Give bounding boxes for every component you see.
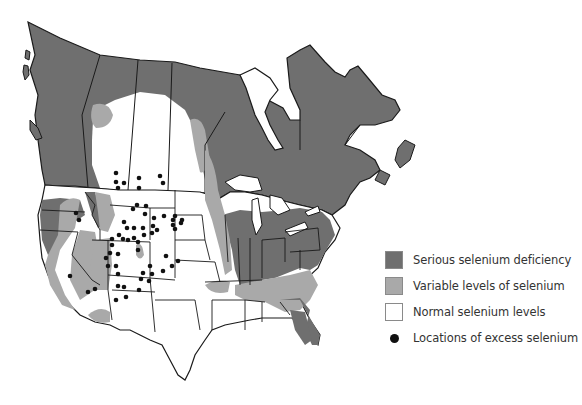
legend-label: Serious selenium deficiency — [413, 253, 571, 267]
variable-levels-swatch — [385, 277, 403, 295]
normal-levels-swatch — [385, 303, 403, 321]
legend-item-serious-deficiency: Serious selenium deficiency — [385, 247, 580, 273]
excess-dot-icon — [385, 329, 403, 347]
legend-item-excess-selenium: Locations of excess selenium — [385, 325, 580, 351]
legend: Serious selenium deficiency Variable lev… — [385, 247, 580, 351]
legend-label: Locations of excess selenium — [413, 331, 578, 345]
legend-item-variable-levels: Variable levels of selenium — [385, 273, 580, 299]
legend-label: Variable levels of selenium — [413, 279, 565, 293]
legend-label: Normal selenium levels — [413, 305, 545, 319]
serious-deficiency-swatch — [385, 251, 403, 269]
legend-item-normal-levels: Normal selenium levels — [385, 299, 580, 325]
canada-region — [23, 22, 415, 215]
